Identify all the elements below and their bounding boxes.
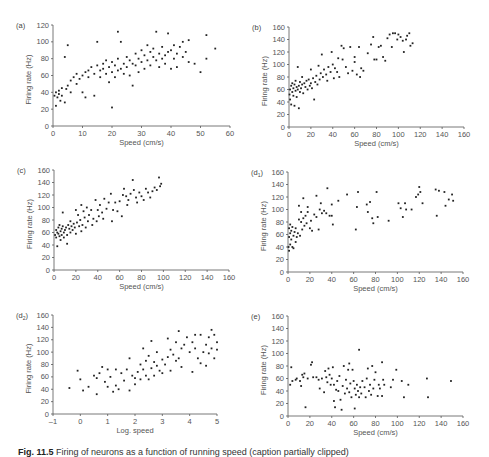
x-tick-label: 60: [349, 275, 357, 284]
x-tick-label: 100: [392, 130, 405, 139]
panel-label: (b): [252, 23, 262, 32]
scatter-points: [54, 31, 217, 109]
x-axis-title: Log. speed: [116, 426, 153, 435]
y-tick-label: 40: [41, 88, 49, 97]
y-tick-label: 160: [271, 312, 284, 321]
y-tick-label: 80: [276, 218, 284, 227]
y-tick-label: 100: [37, 203, 50, 212]
x-tick-label: 80: [137, 273, 145, 282]
x-tick-label: 100: [391, 419, 404, 428]
y-tick-label: 140: [36, 323, 49, 332]
y-tick-label: 120: [271, 337, 284, 346]
panel-label: (c): [17, 166, 26, 175]
x-tick-label: 60: [226, 129, 234, 138]
y-tick-label: 120: [37, 191, 50, 200]
x-tick-label: 40: [167, 129, 175, 138]
y-tick-label: 100: [36, 37, 49, 46]
x-tick-label: 50: [196, 129, 204, 138]
caption-text: Firing of neurons as a function of runni…: [56, 447, 349, 457]
panel-c: 0204060801001201401600204060801001201401…: [17, 166, 235, 291]
x-tick-label: 20: [108, 129, 116, 138]
x-tick-label: 0: [78, 417, 82, 426]
x-tick-label: 40: [328, 275, 336, 284]
x-axis-title: Speed (cm/s): [353, 284, 398, 293]
y-tick-label: 40: [276, 387, 284, 396]
y-tick-label: 80: [277, 73, 285, 82]
x-axis-title: Speed (cm/s): [119, 282, 164, 291]
x-tick-label: 30: [137, 129, 145, 138]
x-tick-label: 40: [328, 419, 336, 428]
y-tick-label: 120: [36, 335, 49, 344]
scatter-points: [69, 329, 218, 395]
x-tick-label: 60: [115, 273, 123, 282]
y-tick-label: 0: [281, 123, 285, 132]
panel-d2: –1012345020406080100120140160Log. speedF…: [16, 311, 219, 435]
y-axis-title: Firing rate (Hz): [25, 198, 34, 249]
x-tick-label: 140: [435, 275, 448, 284]
x-tick-label: 140: [435, 419, 448, 428]
x-tick-label: –1: [49, 417, 57, 426]
y-tick-label: 60: [276, 230, 284, 239]
x-tick-label: 160: [457, 419, 470, 428]
x-tick-label: 5: [215, 417, 219, 426]
y-tick-label: 20: [41, 397, 49, 406]
x-tick-label: 100: [157, 273, 170, 282]
x-tick-label: 160: [457, 275, 470, 284]
x-tick-label: 120: [413, 419, 426, 428]
x-tick-label: 160: [223, 273, 236, 282]
y-tick-label: 20: [42, 253, 50, 262]
x-tick-label: 120: [413, 275, 426, 284]
y-tick-label: 60: [277, 85, 285, 94]
x-tick-label: 60: [349, 419, 357, 428]
y-tick-label: 20: [276, 399, 284, 408]
y-tick-label: 160: [271, 168, 284, 177]
x-tick-label: 120: [179, 273, 192, 282]
y-tick-label: 80: [41, 360, 49, 369]
x-tick-label: 40: [94, 273, 102, 282]
y-tick-label: 40: [42, 241, 50, 250]
y-tick-label: 20: [277, 110, 285, 119]
figure-caption: Fig. 11.5 Firing of neurons as a functio…: [18, 447, 349, 457]
x-tick-label: 100: [391, 275, 404, 284]
y-axis-title: Firing rate (Hz): [260, 55, 269, 106]
y-tick-label: 0: [46, 266, 50, 275]
x-tick-label: 0: [287, 130, 291, 139]
y-tick-label: 140: [37, 178, 50, 187]
panel-label: (a): [16, 21, 26, 30]
y-tick-label: 140: [271, 324, 284, 333]
x-tick-label: 0: [52, 273, 56, 282]
x-tick-label: 80: [372, 130, 380, 139]
y-tick-label: 80: [276, 362, 284, 371]
x-axis-title: Speed (cm/s): [119, 138, 164, 147]
y-tick-label: 0: [280, 412, 284, 421]
x-tick-label: 0: [286, 419, 290, 428]
y-tick-label: 60: [42, 228, 50, 237]
y-tick-label: 100: [272, 60, 285, 69]
y-tick-label: 80: [42, 216, 50, 225]
x-tick-label: 0: [51, 129, 55, 138]
y-tick-label: 120: [36, 21, 49, 30]
y-tick-label: 80: [41, 54, 49, 63]
y-tick-label: 20: [276, 255, 284, 264]
x-axis-title: Speed (cm/s): [353, 428, 398, 437]
panel-e: 0204060801001201401600204060801001201401…: [251, 312, 469, 437]
y-tick-label: 100: [271, 349, 284, 358]
panel-label: (d1): [251, 168, 263, 178]
panel-d1: 0204060801001201401600204060801001201401…: [251, 168, 469, 293]
x-tick-label: 40: [329, 130, 337, 139]
x-tick-label: 140: [201, 273, 214, 282]
x-tick-label: 80: [371, 275, 379, 284]
y-axis-title: Firing rate (Hz): [24, 54, 33, 105]
y-tick-label: 0: [280, 268, 284, 277]
y-axis-title: Firing rate (Hz): [259, 200, 268, 251]
x-tick-label: 20: [72, 273, 80, 282]
y-tick-label: 60: [41, 372, 49, 381]
y-tick-label: 60: [276, 374, 284, 383]
y-axis-title: Firing rate (Hz): [259, 344, 268, 395]
x-tick-label: 80: [371, 419, 379, 428]
y-tick-label: 100: [271, 205, 284, 214]
x-tick-label: 20: [307, 130, 315, 139]
y-tick-label: 120: [272, 48, 285, 57]
x-tick-label: 3: [160, 417, 164, 426]
